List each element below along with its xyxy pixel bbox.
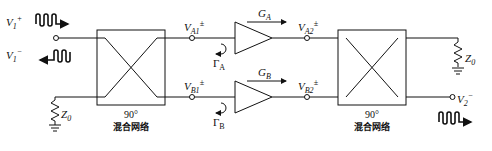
- hybrid-right-caption: 90° 混合网络: [351, 110, 393, 132]
- label-gb: GB: [258, 67, 271, 81]
- resistor-icon: [454, 38, 462, 67]
- amplifier-a: [235, 22, 272, 54]
- label-vb1: VB1±: [184, 79, 204, 95]
- ground-icon: [49, 125, 61, 131]
- label-gamma-a: ΓA: [213, 58, 225, 72]
- hybrid-left-caption: 90° 混合网络: [110, 110, 152, 132]
- amplifier-b: [235, 81, 272, 113]
- output-wave-icon: [439, 112, 471, 124]
- label-gamma-b: ΓB: [213, 117, 225, 131]
- label-ga: GA: [258, 8, 271, 22]
- label-va1: VA1±: [184, 20, 204, 36]
- label-v2-minus: V2−: [457, 92, 473, 108]
- resistor-icon: [51, 97, 59, 125]
- reflected-wave-icon: [40, 50, 70, 62]
- label-v1-minus: V1−: [6, 48, 22, 64]
- balanced-amplifier-diagram: V1+ V1− V2− VA1± VA2± VB1± VB2± GA GB ΓA…: [0, 0, 492, 151]
- label-vb2: VB2±: [298, 79, 318, 95]
- label-z0-right: Z0: [465, 53, 475, 67]
- ground-icon: [452, 68, 464, 74]
- label-va2: VA2±: [298, 20, 318, 36]
- label-v1-plus: V1+: [6, 15, 22, 31]
- incident-wave-icon: [36, 14, 68, 26]
- label-z0-left: Z0: [61, 109, 71, 123]
- circuit-schematic: [0, 0, 492, 151]
